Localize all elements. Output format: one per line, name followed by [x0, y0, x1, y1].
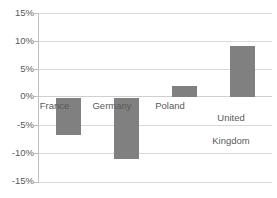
category-label-united-kingdom-line2: Kingdom — [212, 135, 250, 146]
bar-poland — [172, 86, 197, 97]
ytick-label-neg15: -15% — [12, 176, 34, 186]
bar-united-kingdom — [230, 46, 255, 97]
ytick-label-10: 10% — [15, 36, 34, 46]
ytick-label-neg10: -10% — [12, 148, 34, 158]
category-label-germany: Germany — [84, 100, 140, 112]
gridline-15 — [39, 13, 272, 14]
gridline-neg15 — [39, 182, 272, 183]
category-label-france: France — [27, 100, 82, 112]
category-label-united-kingdom-line1: United — [217, 112, 244, 123]
category-label-united-kingdom: United Kingdom — [199, 100, 263, 146]
ytick-label-neg5: -5% — [17, 120, 34, 130]
gridline-neg10 — [39, 153, 272, 154]
ytick-label-5: 5% — [20, 64, 34, 74]
ytick-label-15: 15% — [15, 8, 34, 18]
gridline-10 — [39, 41, 272, 42]
plot-area — [39, 13, 272, 182]
bar-chart: 15% 10% 5% 0% -5% -10% -15% France Germa… — [0, 0, 277, 198]
category-label-poland: Poland — [143, 100, 197, 112]
